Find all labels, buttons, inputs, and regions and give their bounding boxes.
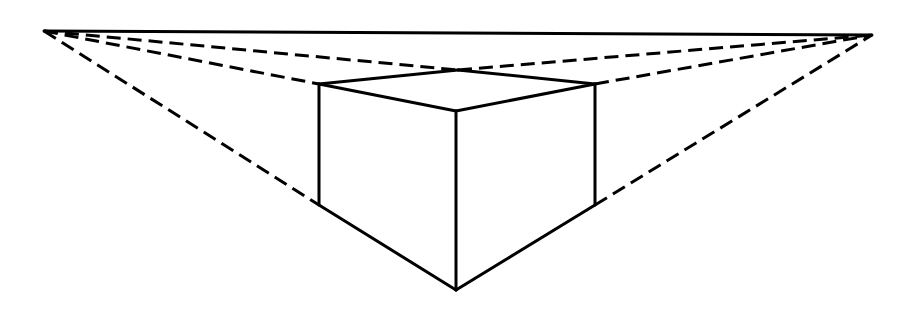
- edge-bottom_left-bottom_front: [319, 205, 456, 290]
- edge-bottom_front-bottom_right: [456, 205, 595, 290]
- box-edges: [44, 31, 872, 290]
- dashed-line-bottom_right-vp_right: [595, 35, 872, 205]
- edge-top_left-top_front: [319, 84, 456, 111]
- perspective-diagram: [0, 0, 906, 310]
- edge-top_left-top_back: [319, 70, 458, 84]
- edge-vp_left-vp_right: [44, 31, 872, 35]
- edge-top_front-top_right: [456, 84, 595, 111]
- construction-lines: [44, 31, 872, 205]
- edge-top_back-top_right: [458, 70, 595, 84]
- dashed-line-top_back-vp_right: [458, 35, 872, 70]
- dashed-line-vp_left-top_back: [44, 31, 458, 70]
